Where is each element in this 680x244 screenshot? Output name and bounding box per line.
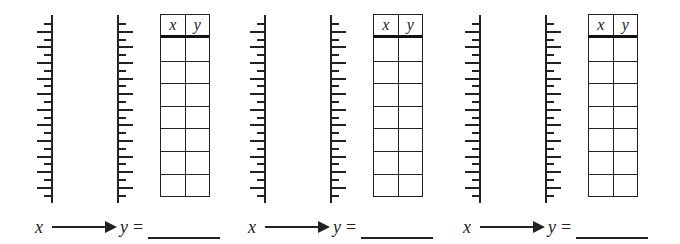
tick-mark <box>547 179 554 181</box>
output-label: y <box>548 218 556 236</box>
tick-mark <box>465 31 479 33</box>
tick-mark <box>547 93 561 95</box>
tick-mark <box>472 54 479 56</box>
equals-sign: = <box>561 218 571 236</box>
tick-mark <box>472 179 479 181</box>
tick-mark <box>547 85 554 87</box>
left-number-line <box>479 15 481 203</box>
table-row <box>589 83 637 106</box>
tick-mark <box>465 156 479 158</box>
rule-answer-blank[interactable] <box>576 237 648 239</box>
table-row <box>589 61 637 84</box>
tick-mark <box>547 39 554 41</box>
x-cell[interactable] <box>589 129 613 151</box>
tick-mark <box>472 117 479 119</box>
y-cell[interactable] <box>613 129 638 151</box>
y-cell[interactable] <box>613 152 638 174</box>
tick-mark <box>547 171 561 173</box>
tick-mark <box>472 163 479 165</box>
tick-mark <box>465 93 479 95</box>
arrowhead-icon <box>533 221 545 233</box>
tick-mark <box>472 195 479 197</box>
x-cell[interactable] <box>589 107 613 129</box>
tick-mark <box>547 101 554 103</box>
y-cell[interactable] <box>613 38 638 61</box>
x-cell[interactable] <box>589 175 613 197</box>
tick-mark <box>547 31 561 33</box>
tick-mark <box>547 163 554 165</box>
tick-mark <box>465 140 479 142</box>
table-header: xy <box>589 15 637 38</box>
tick-mark <box>472 101 479 103</box>
table-row <box>589 174 637 197</box>
tick-mark <box>547 46 561 48</box>
y-cell[interactable] <box>613 107 638 129</box>
xy-table: xy <box>588 14 638 197</box>
tick-mark <box>547 132 554 134</box>
tick-mark <box>465 171 479 173</box>
y-cell[interactable] <box>613 62 638 84</box>
arrow-icon <box>480 226 537 228</box>
table-row <box>589 106 637 129</box>
tick-mark <box>547 54 554 56</box>
header-y: y <box>613 15 638 35</box>
tick-mark <box>547 62 561 64</box>
tick-mark <box>547 148 554 150</box>
x-cell[interactable] <box>589 152 613 174</box>
x-cell[interactable] <box>589 62 613 84</box>
header-x: x <box>589 15 613 35</box>
table-row <box>589 38 637 61</box>
tick-mark <box>547 109 561 111</box>
x-cell[interactable] <box>589 84 613 106</box>
x-cell[interactable] <box>589 38 613 61</box>
tick-mark <box>465 62 479 64</box>
tick-mark <box>465 78 479 80</box>
tick-mark <box>547 78 561 80</box>
tick-mark <box>547 124 561 126</box>
input-label: x <box>463 218 471 236</box>
table-row <box>589 151 637 174</box>
y-cell[interactable] <box>613 175 638 197</box>
function-machine-group-3: xyxy= <box>0 0 680 244</box>
tick-mark <box>465 187 479 189</box>
tick-mark <box>472 85 479 87</box>
tick-mark <box>547 187 561 189</box>
tick-mark <box>547 23 554 25</box>
tick-mark <box>472 23 479 25</box>
tick-mark <box>465 124 479 126</box>
tick-mark <box>547 117 554 119</box>
tick-mark <box>465 109 479 111</box>
table-row <box>589 128 637 151</box>
tick-mark <box>472 70 479 72</box>
tick-mark <box>465 46 479 48</box>
tick-mark <box>472 132 479 134</box>
tick-mark <box>547 140 561 142</box>
y-cell[interactable] <box>613 84 638 106</box>
tick-mark <box>547 195 554 197</box>
tick-mark <box>547 70 554 72</box>
tick-mark <box>547 156 561 158</box>
tick-mark <box>472 39 479 41</box>
tick-mark <box>472 148 479 150</box>
